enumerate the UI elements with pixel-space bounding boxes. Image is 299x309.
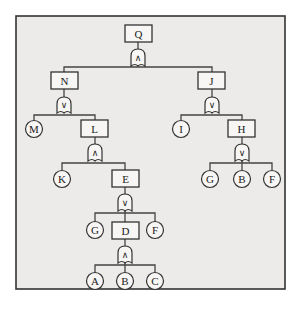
basic-event-c: C <box>147 273 164 290</box>
event-n: N <box>51 72 78 89</box>
basic-event-g-h: G <box>202 171 219 188</box>
svg-text:N: N <box>61 75 69 87</box>
svg-text:L: L <box>91 123 98 135</box>
basic-event-i: I <box>173 121 190 138</box>
event-q: Q <box>125 25 152 42</box>
event-l: L <box>81 120 108 137</box>
svg-text:D: D <box>122 225 130 237</box>
gate-d-and: ∧ <box>118 246 132 263</box>
gate-h-or: ∨ <box>235 144 249 161</box>
event-e: E <box>112 170 139 187</box>
svg-text:∨: ∨ <box>239 148 246 158</box>
svg-text:F: F <box>269 173 275 185</box>
svg-text:B: B <box>121 275 128 287</box>
svg-text:B: B <box>238 173 245 185</box>
basic-event-b-h: B <box>234 171 251 188</box>
svg-text:E: E <box>122 173 129 185</box>
svg-text:H: H <box>238 123 246 135</box>
svg-text:G: G <box>206 173 214 185</box>
event-j: J <box>198 72 225 89</box>
gate-e-or: ∨ <box>118 194 132 211</box>
gate-q-and: ∧ <box>131 49 145 66</box>
basic-event-f-e: F <box>147 222 164 239</box>
basic-event-f-h: F <box>264 171 281 188</box>
basic-event-b-d: B <box>117 273 134 290</box>
event-d: D <box>112 222 139 239</box>
svg-text:I: I <box>179 123 183 135</box>
event-h: H <box>228 120 255 137</box>
svg-text:∧: ∧ <box>135 53 142 63</box>
gate-l-and: ∧ <box>88 144 102 161</box>
svg-text:∧: ∧ <box>122 250 129 260</box>
svg-text:C: C <box>151 275 158 287</box>
svg-text:G: G <box>91 224 99 236</box>
svg-text:M: M <box>29 123 39 135</box>
basic-event-m: M <box>26 121 43 138</box>
svg-text:A: A <box>91 275 99 287</box>
svg-text:Q: Q <box>135 28 143 40</box>
svg-text:J: J <box>209 75 214 87</box>
basic-event-k: K <box>54 171 71 188</box>
gate-n-or: ∨ <box>57 97 71 113</box>
svg-text:∨: ∨ <box>122 198 129 208</box>
fault-tree-diagram: ∧ ∨ ∨ ∧ ∨ ∨ ∧ Q N J L H <box>0 0 299 309</box>
svg-text:K: K <box>58 173 66 185</box>
svg-text:∨: ∨ <box>61 100 68 110</box>
gate-j-or: ∨ <box>205 97 219 113</box>
basic-event-a: A <box>87 273 104 290</box>
svg-text:∨: ∨ <box>209 100 216 110</box>
basic-event-g-e: G <box>87 222 104 239</box>
svg-text:F: F <box>152 224 158 236</box>
svg-text:∧: ∧ <box>92 148 99 158</box>
